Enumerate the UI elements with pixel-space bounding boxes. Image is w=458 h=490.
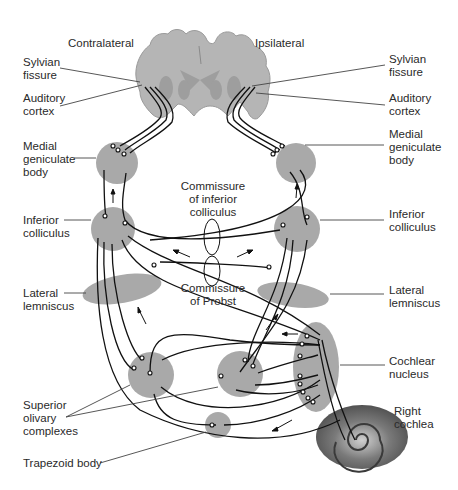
commissure-inferior-colliculus-label: Commissure of inferior colliculus xyxy=(172,180,254,219)
inferior-colliculus-right-label: Inferior colliculus xyxy=(389,208,436,234)
inferior-colliculus-left-label: Inferior colliculus xyxy=(23,214,70,240)
brain-coronal-section xyxy=(136,30,270,119)
superior-olivary-complexes-label: Superior olivary complexes xyxy=(23,399,78,438)
medial-geniculate-left-label: Medial geniculate body xyxy=(23,140,75,179)
contralateral-label: Contralateral xyxy=(68,37,134,50)
superior-olivary-complex-right xyxy=(217,351,263,397)
trapezoid-body-label: Trapezoid body xyxy=(23,457,102,470)
ipsilateral-label: Ipsilateral xyxy=(255,37,304,50)
lateral-lemniscus-left xyxy=(80,268,164,309)
commissure-inferior-colliculus-ellipse xyxy=(204,219,220,255)
cochlear-nucleus-label: Cochlear nucleus xyxy=(389,355,435,381)
medial-geniculate-right-label: Medial geniculate body xyxy=(389,128,441,167)
medial-geniculate-body-right xyxy=(276,143,316,183)
lateral-lemniscus-right-label: Lateral lemniscus xyxy=(389,284,440,310)
sylvian-fissure-right-label: Sylvian fissure xyxy=(389,53,426,79)
commissure-probst-label: Commissure of Probst xyxy=(172,282,254,308)
auditory-cortex-right-label: Auditory cortex xyxy=(389,92,431,118)
sylvian-fissure-left-label: Sylvian fissure xyxy=(23,56,60,82)
lateral-lemniscus-left-label: Lateral lemniscus xyxy=(23,287,74,313)
auditory-cortex-left-label: Auditory cortex xyxy=(23,92,65,118)
right-cochlea-label: Right cochlea xyxy=(394,405,434,431)
